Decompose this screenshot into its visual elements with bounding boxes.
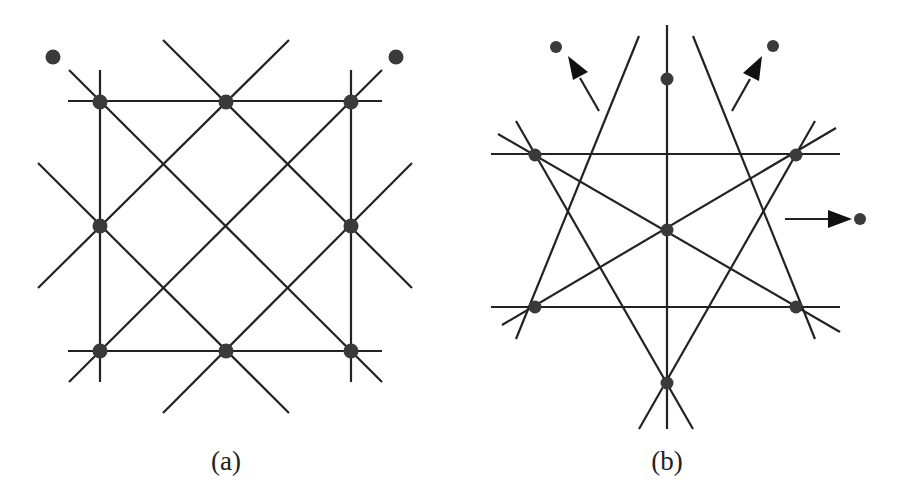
free-point [46,50,61,65]
arrow-right-icon [785,210,852,228]
node [93,344,108,359]
panel-b: (b) [491,25,866,476]
arrow-up-right-icon [732,56,762,111]
node [661,73,674,86]
free-point [767,40,779,52]
line-top-to-lowerleft [516,36,639,339]
node [790,149,803,162]
node [529,301,542,314]
arrow-up-left-icon [568,56,599,111]
node [219,344,234,359]
free-point [550,41,562,53]
caption-a: (a) [211,446,241,476]
node [93,219,108,234]
node [344,95,359,110]
node [219,95,234,110]
panel-a: (a) [38,40,412,476]
free-point [854,213,866,225]
caption-b: (b) [651,446,682,476]
figure-canvas: (a) [0,0,900,495]
node [529,149,542,162]
node [661,224,674,237]
free-point [389,50,404,65]
line-top-to-lowerright [693,36,815,339]
node [93,95,108,110]
node [661,377,674,390]
node [344,219,359,234]
node [790,301,803,314]
node [344,344,359,359]
